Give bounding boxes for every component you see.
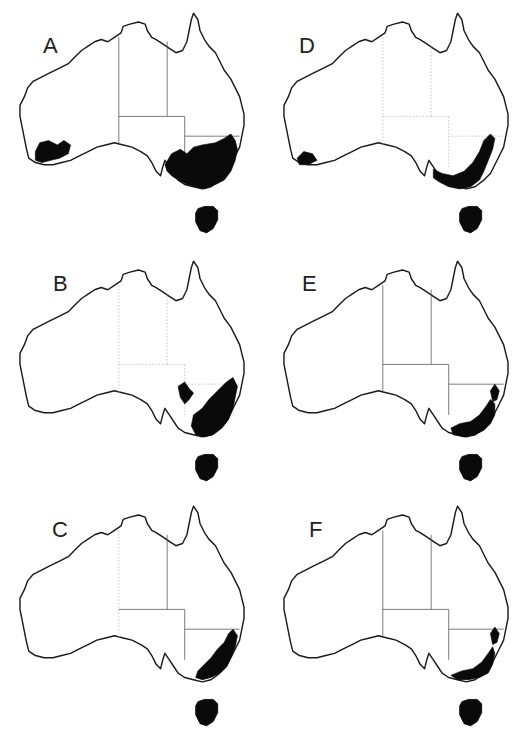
panel-label: E	[302, 271, 317, 297]
australia-map	[0, 493, 264, 739]
map-panel-a: A	[0, 0, 264, 246]
panel-label: B	[53, 271, 68, 297]
panel-label: D	[299, 33, 315, 59]
panel-label: F	[309, 517, 322, 543]
tasmania-distribution	[460, 206, 482, 232]
map-panel-f: F	[264, 493, 528, 739]
australia-map	[0, 0, 264, 246]
map-panel-e: E	[264, 248, 528, 494]
tasmania-distribution	[196, 454, 218, 480]
panel-label: C	[52, 517, 68, 543]
tasmania-distribution	[196, 699, 218, 725]
panel-label: A	[43, 33, 58, 59]
australia-map	[0, 248, 264, 494]
map-panel-d: D	[264, 0, 528, 246]
australia-coastline	[284, 261, 508, 437]
map-panel-b: B	[0, 248, 264, 494]
map-panel-c: C	[0, 493, 264, 739]
tasmania-distribution	[460, 454, 482, 480]
tasmania-distribution	[460, 699, 482, 725]
australia-map	[264, 493, 528, 739]
tasmania-distribution	[196, 206, 218, 232]
